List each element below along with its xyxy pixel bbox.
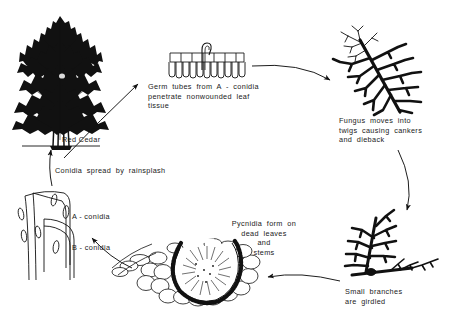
caption-small-branches: Small branches are girdled: [345, 287, 445, 306]
caption-pycnidia: Pycnidia form on dead leaves and stems: [218, 219, 310, 257]
red-cedar-illustration: [12, 16, 109, 150]
branch-girdled-illustration: [345, 210, 438, 275]
arrow-leaf-to-branch: [252, 65, 330, 80]
caption-fungus-twigs: Fungus moves into twigs causing cankers …: [339, 116, 447, 145]
branch-dieback-illustration: [333, 26, 421, 115]
caption-rainsplash: Conidia spread by rainsplash: [55, 166, 166, 176]
disease-cycle-diagram: Germ tubes from A - conidia penetrate no…: [0, 0, 449, 321]
label-a-conidia: A - conidia: [72, 212, 110, 221]
diagram-canvas: [0, 0, 449, 321]
arrow-branch-to-girdled: [398, 150, 409, 210]
arrow-girdled-to-pycnidia: [268, 275, 340, 281]
arrow-conidia-to-tree: [50, 150, 52, 186]
leaf-epidermis-illustration: [169, 43, 245, 78]
caption-germ-tubes: Germ tubes from A - conidia penetrate no…: [148, 82, 276, 111]
label-red-cedar: Red Cedar: [62, 135, 100, 144]
label-b-conidia: B - conidia: [72, 243, 110, 252]
conidia-illustration: [17, 192, 74, 280]
